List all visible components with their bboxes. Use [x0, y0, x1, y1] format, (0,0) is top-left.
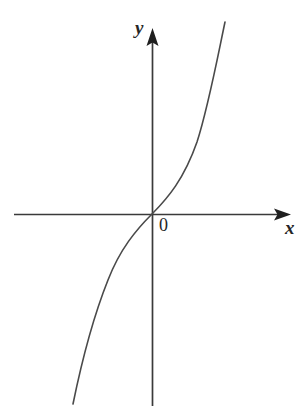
x-axis-label: x [285, 218, 295, 237]
y-axis-label: y [135, 18, 143, 37]
graph-figure [0, 0, 307, 414]
origin-label: 0 [159, 216, 168, 234]
figure-background [0, 0, 307, 414]
